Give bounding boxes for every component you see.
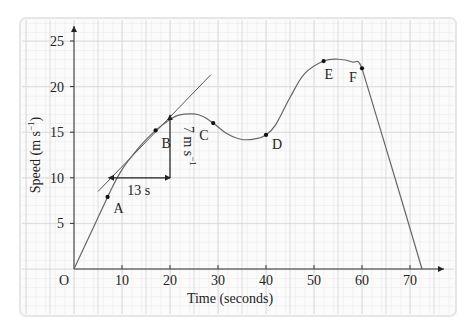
point-label: A	[114, 201, 125, 216]
point-marker	[106, 195, 110, 199]
x-tick-label: 50	[307, 273, 321, 288]
grid	[22, 20, 454, 314]
point-marker	[211, 121, 215, 125]
point-marker	[154, 128, 158, 132]
point-label: F	[349, 70, 357, 85]
point-label: C	[199, 128, 208, 143]
point-marker	[360, 66, 364, 70]
x-axis-label: Time (seconds)	[187, 291, 274, 307]
y-tick-label: 5	[57, 216, 64, 231]
speed-time-chart: 10203040506070510152025 O Time (seconds)…	[0, 0, 470, 329]
point-label: E	[325, 67, 334, 82]
y-tick-label: 25	[50, 34, 64, 49]
point-marker	[322, 59, 326, 63]
x-tick-label: 40	[259, 273, 273, 288]
x-tick-label: 10	[115, 273, 129, 288]
y-tick-label: 20	[50, 80, 64, 95]
y-tick-label: 10	[50, 171, 64, 186]
x-tick-label: 20	[163, 273, 177, 288]
point-marker	[264, 133, 268, 137]
chart-canvas: 10203040506070510152025 O Time (seconds)…	[0, 0, 470, 329]
run-label: 13 s	[127, 183, 150, 198]
y-tick-label: 15	[50, 125, 64, 140]
point-label: B	[162, 136, 171, 151]
x-tick-label: 30	[211, 273, 225, 288]
x-tick-label: 60	[355, 273, 369, 288]
point-label: D	[272, 137, 282, 152]
origin-label: O	[59, 273, 69, 288]
x-tick-label: 70	[403, 273, 417, 288]
